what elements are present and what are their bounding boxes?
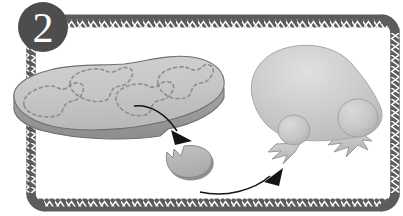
detached-piece [166, 145, 213, 180]
arrow-2-head [264, 168, 283, 186]
creature [251, 45, 382, 164]
creature-ankle-front [278, 115, 310, 145]
step-badge-label: 2 [33, 5, 54, 51]
frame-zigzag-top [38, 20, 388, 28]
step-badge: 2 [18, 2, 68, 52]
arrow-2-shaft [200, 176, 270, 194]
slab-platform [14, 56, 224, 139]
illustration-canvas: 2 [0, 0, 403, 216]
arrow-1-head [171, 130, 192, 145]
creature-ankle-back [338, 99, 378, 137]
frame-zigzag-bottom [38, 199, 388, 207]
frame-zigzag-right [391, 28, 400, 198]
illustration-svg: 2 [0, 0, 403, 216]
detached-piece-body [166, 145, 211, 177]
arrow-piece-to-creature [200, 168, 283, 194]
creature-foot-front [268, 143, 300, 164]
